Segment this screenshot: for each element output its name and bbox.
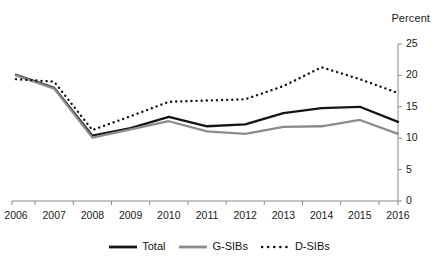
legend-label: Total (142, 240, 165, 252)
chart-legend: TotalG-SIBsD-SIBs (0, 240, 438, 252)
legend-item-g-sibs[interactable]: G-SIBs (178, 240, 247, 252)
x-tick-label: 2014 (310, 209, 333, 221)
solid-gray-line-swatch (178, 241, 208, 252)
legend-item-total[interactable]: Total (108, 240, 165, 252)
y-tick-label: 5 (406, 163, 412, 175)
legend-label: D-SIBs (295, 240, 330, 252)
dotted-black-line-swatch (261, 241, 291, 252)
x-tick-label: 2006 (4, 209, 27, 221)
y-tick-label: 15 (406, 100, 418, 112)
series-lines (16, 67, 398, 137)
x-tick-label: 2016 (386, 209, 409, 221)
plot-area (0, 0, 438, 260)
y-tick-label: 20 (406, 68, 418, 80)
x-tick-label: 2009 (119, 209, 142, 221)
x-tick-label: 2010 (157, 209, 180, 221)
x-tick-label: 2008 (81, 209, 104, 221)
y-tick-label: 25 (406, 37, 418, 49)
y-tick-label: 10 (406, 131, 418, 143)
y-tick-label: 0 (406, 194, 412, 206)
x-tick-label: 2013 (272, 209, 295, 221)
legend-label: G-SIBs (212, 240, 247, 252)
x-tick-label: 2012 (234, 209, 257, 221)
x-tick-label: 2007 (43, 209, 66, 221)
line-chart: Percent 0510152025 200620072008200920102… (0, 0, 438, 260)
x-tick-label: 2011 (196, 209, 219, 221)
series-line-d-sibs (16, 67, 398, 130)
x-tick-label: 2015 (348, 209, 371, 221)
x-axis (12, 201, 398, 205)
legend-item-d-sibs[interactable]: D-SIBs (261, 240, 330, 252)
solid-black-line-swatch (108, 241, 138, 252)
series-line-total (16, 75, 398, 136)
